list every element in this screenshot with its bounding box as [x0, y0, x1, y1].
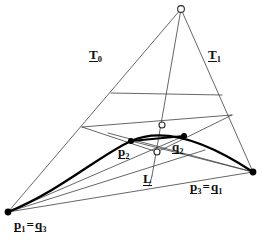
intersection-upper — [159, 122, 165, 128]
label-p2: p2 — [118, 145, 129, 159]
line-apex-to-p3 — [181, 9, 253, 172]
point-p1-q3 — [5, 209, 12, 216]
point-p3-q1 — [250, 169, 257, 176]
label-L: L — [143, 172, 152, 186]
geometry-figure: T0 T1 L p2 q2 p1=q3 p3=q1 — [0, 0, 266, 244]
label-q1-sub: 1 — [218, 186, 222, 196]
label-p1-eq-q3: p1=q3 — [14, 218, 46, 232]
label-p2-sub: 2 — [125, 151, 129, 161]
label-p1-sub: 1 — [21, 224, 25, 234]
label-T0-base: T — [89, 48, 98, 62]
label-equals-2: = — [201, 179, 210, 194]
label-q2-sub: 2 — [179, 146, 183, 156]
label-T0-sub: 0 — [98, 54, 102, 64]
point-q2 — [181, 133, 187, 139]
label-p3-sub: 3 — [197, 186, 201, 196]
point-p2 — [128, 138, 134, 144]
label-T1-sub: 1 — [217, 54, 221, 64]
label-equals: = — [25, 217, 34, 232]
chord-middle — [82, 115, 232, 127]
line-apex-to-p1 — [8, 9, 181, 212]
label-L-base: L — [143, 172, 152, 186]
segment-split-to-right — [157, 115, 232, 152]
label-T1: T1 — [208, 48, 221, 62]
label-T0: T0 — [89, 48, 102, 62]
figure-canvas — [0, 0, 266, 244]
label-p3-eq-q1: p3=q1 — [190, 180, 222, 194]
curve-split-point — [154, 149, 160, 155]
fan-p1-to-mid — [8, 150, 205, 212]
label-T1-base: T — [208, 48, 217, 62]
label-q3-sub: 3 — [42, 224, 46, 234]
label-q2: q2 — [172, 140, 183, 154]
apex-control-point — [178, 6, 185, 13]
